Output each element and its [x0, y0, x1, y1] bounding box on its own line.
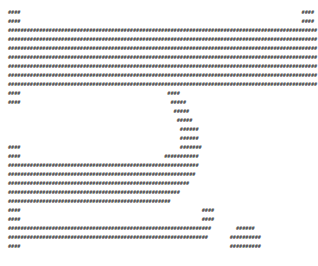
ascii-art-canvas: #### #### #### #### ## [0, 0, 312, 266]
